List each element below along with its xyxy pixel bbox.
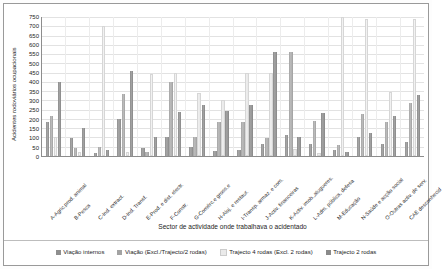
bar-group: [257, 17, 281, 156]
y-tick-label: 550: [29, 51, 39, 57]
bar: [225, 111, 228, 156]
x-tick-label: N-Saúde e acção social: [360, 176, 405, 221]
y-tick-label: 0: [36, 154, 39, 160]
bar: [389, 92, 392, 156]
y-tick-label: 400: [29, 79, 39, 85]
y-tick-label: 100: [29, 135, 39, 141]
gridline: [42, 156, 424, 157]
bar: [365, 19, 368, 156]
bar: [174, 73, 177, 156]
legend-item[interactable]: Viação (Excl./Trajecto/2 rodas): [117, 249, 206, 255]
legend-label: Viação (Excl./Trajecto/2 rodas): [125, 249, 207, 255]
bar-group: [329, 17, 353, 156]
bar-group: [353, 17, 377, 156]
bar: [297, 137, 300, 156]
bar: [193, 137, 196, 156]
bar-group: [186, 17, 210, 156]
bar: [221, 100, 224, 156]
x-tick-label: O-Outras activ. de serv.: [384, 177, 428, 221]
bar: [213, 151, 216, 156]
legend-item[interactable]: Viação internos: [56, 249, 105, 255]
bar-group: [90, 17, 114, 156]
y-tick-label: 150: [29, 126, 39, 132]
bar: [345, 152, 348, 156]
bar: [393, 116, 396, 156]
bar: [285, 135, 288, 156]
bar: [381, 144, 384, 156]
bar: [417, 95, 420, 156]
bar: [102, 26, 105, 156]
legend-label: Trajecto 4 rodas (Excl. 2 rodas): [229, 249, 312, 255]
y-tick-label: 600: [29, 42, 39, 48]
bar: [361, 114, 364, 156]
plot-area: [41, 17, 424, 157]
y-tick-label: 700: [29, 23, 39, 29]
bar: [265, 138, 268, 156]
bar: [189, 147, 192, 156]
y-tick-label: 500: [29, 61, 39, 67]
bar: [58, 82, 61, 156]
bar: [237, 150, 240, 156]
bar: [117, 119, 120, 156]
x-tick-label: F-Constr.: [168, 201, 188, 221]
bar: [261, 144, 264, 156]
bar: [273, 52, 276, 156]
bar: [321, 113, 324, 156]
bar-group: [66, 17, 90, 156]
bar: [130, 71, 133, 156]
bar-group: [234, 17, 258, 156]
bar: [357, 137, 360, 156]
bar: [126, 152, 129, 156]
bar: [313, 121, 316, 156]
x-axis-tick-labels: A-Agric.prod. animalB-PescaC-Ind. extrac…: [41, 159, 424, 221]
bar: [169, 82, 172, 156]
bar: [202, 105, 205, 156]
x-tick-label: B-Pesca: [73, 202, 92, 221]
bar: [46, 122, 49, 156]
bar: [150, 74, 153, 156]
bar: [249, 105, 252, 156]
y-axis-title: Acidentes rodoviários ocupacionais: [6, 19, 20, 169]
bar: [94, 153, 97, 156]
legend-item[interactable]: Trajecto 4 rodas (Excl. 2 rodas): [220, 249, 313, 256]
bar: [50, 116, 53, 156]
y-tick-label: 200: [29, 117, 39, 123]
y-tick-label: 250: [29, 107, 39, 113]
bar: [293, 149, 296, 156]
legend-swatch-icon: [326, 250, 331, 255]
bar: [289, 52, 292, 156]
bar: [409, 103, 412, 156]
x-tick-label: I-Transp. armaz. e com.: [240, 176, 285, 221]
x-tick-label: D-Ind. Transf.: [121, 194, 148, 221]
bar: [165, 137, 168, 156]
bar: [122, 94, 125, 156]
bar-group: [114, 17, 138, 156]
bar: [82, 128, 85, 156]
bar: [309, 144, 312, 156]
bar: [317, 153, 320, 156]
bar: [54, 137, 57, 156]
x-tick-label: K-Activ. imob.,alugueres.: [288, 175, 334, 221]
bar: [154, 137, 157, 156]
x-tick-label: M-Educação: [336, 195, 362, 221]
chart-panel: Acidentes rodoviários ocupacionais 05010…: [4, 5, 428, 237]
bar: [98, 147, 101, 156]
chart-legend: Viação internosViação (Excl./Trajecto/2 …: [4, 240, 428, 263]
legend-item[interactable]: Trajecto 2 rodas: [326, 249, 377, 255]
bar: [145, 152, 148, 156]
bar: [197, 93, 200, 156]
legend-swatch-icon: [220, 249, 227, 256]
bar: [333, 150, 336, 156]
bar: [413, 19, 416, 156]
bar: [178, 112, 181, 156]
y-tick-label: 450: [29, 70, 39, 76]
bar: [341, 17, 344, 156]
legend-swatch-icon: [117, 250, 122, 255]
bar-group: [305, 17, 329, 156]
bar-group: [281, 17, 305, 156]
bar: [385, 122, 388, 156]
bar-group: [377, 17, 401, 156]
bar: [245, 73, 248, 156]
bar-group: [401, 17, 424, 156]
bar: [70, 138, 73, 156]
